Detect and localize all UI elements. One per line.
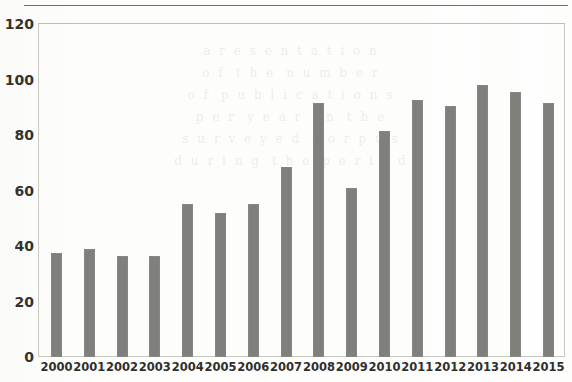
- x-tick-label: 2001: [72, 360, 106, 374]
- bar: [215, 213, 226, 357]
- y-tick-label: 40: [0, 238, 34, 254]
- y-tick-label: 0: [0, 349, 34, 365]
- x-tick-label: 2000: [39, 360, 73, 374]
- y-axis-labels: 020406080100120: [0, 0, 34, 382]
- bar: [477, 85, 488, 357]
- x-tick-label: 2015: [532, 360, 566, 374]
- bar: [412, 100, 423, 357]
- y-tick-label: 20: [0, 294, 34, 310]
- x-tick-label: 2005: [203, 360, 237, 374]
- bar: [149, 256, 160, 357]
- x-tick-label: 2010: [368, 360, 402, 374]
- x-tick-label: 2008: [302, 360, 336, 374]
- x-tick-label: 2012: [433, 360, 467, 374]
- page-top-rule: [24, 5, 568, 6]
- bar: [510, 92, 521, 357]
- bar-series: [39, 24, 564, 357]
- bar: [543, 103, 554, 357]
- x-tick-label: 2002: [105, 360, 139, 374]
- bar: [379, 131, 390, 357]
- x-tick-label: 2003: [138, 360, 172, 374]
- x-tick-label: 2014: [499, 360, 533, 374]
- bar: [117, 256, 128, 357]
- y-tick-label: 100: [0, 72, 34, 88]
- x-tick-label: 2004: [171, 360, 205, 374]
- x-axis-labels: 2000200120022003200420052006200720082009…: [39, 360, 564, 380]
- bar: [182, 204, 193, 357]
- bar: [84, 249, 95, 357]
- x-tick-label: 2013: [466, 360, 500, 374]
- x-tick-label: 2009: [335, 360, 369, 374]
- y-tick-label: 120: [0, 16, 34, 32]
- bar: [51, 253, 62, 357]
- bar: [445, 106, 456, 357]
- bar: [281, 167, 292, 357]
- y-tick-label: 80: [0, 127, 34, 143]
- chart-page: a r e s e n t a t i o n o f t h e n u m …: [0, 0, 572, 382]
- y-tick-label: 60: [0, 183, 34, 199]
- x-tick-label: 2006: [236, 360, 270, 374]
- bar: [248, 204, 259, 357]
- bar: [346, 188, 357, 357]
- bar: [313, 103, 324, 357]
- x-tick-label: 2011: [400, 360, 434, 374]
- x-tick-label: 2007: [269, 360, 303, 374]
